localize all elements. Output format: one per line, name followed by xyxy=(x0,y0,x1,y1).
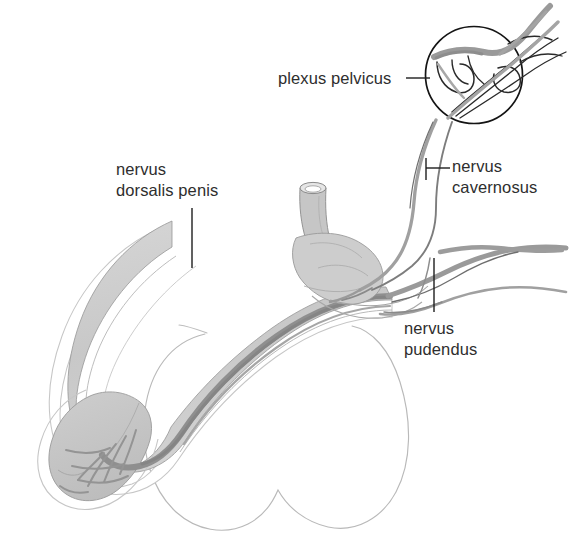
label-nervus-pudendus: nervus pudendus xyxy=(404,318,477,360)
label-plexus-pelvicus-line1: plexus pelvicus xyxy=(278,68,391,89)
label-nervus-dorsalis-penis-line2: dorsalis penis xyxy=(116,180,218,201)
pudendal-nerve xyxy=(380,247,566,315)
label-nervus-cavernosus-line1: nervus xyxy=(452,156,537,177)
label-nervus-dorsalis-penis: nervus dorsalis penis xyxy=(116,159,218,201)
anatomical-diagram-innervation-of-penis: plexus pelvicus nervus cavernosus nervus… xyxy=(0,0,573,553)
urethra-stump xyxy=(300,182,330,240)
label-nervus-cavernosus-line2: cavernosus xyxy=(452,177,537,198)
label-nervus-pudendus-line1: nervus xyxy=(404,318,477,339)
plexus-fibers xyxy=(434,6,566,118)
label-nervus-pudendus-line2: pudendus xyxy=(404,339,477,360)
label-nervus-cavernosus: nervus cavernosus xyxy=(452,156,537,198)
label-nervus-dorsalis-penis-line1: nervus xyxy=(116,159,218,180)
label-plexus-pelvicus: plexus pelvicus xyxy=(278,68,391,89)
